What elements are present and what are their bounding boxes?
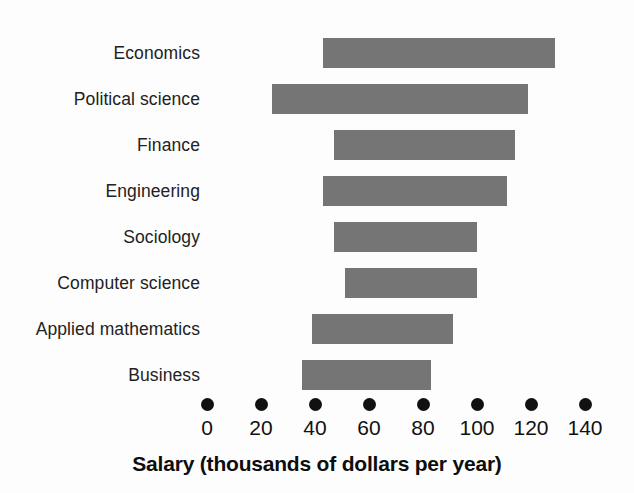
x-axis-tick-dot bbox=[471, 398, 484, 411]
category-label: Political science bbox=[0, 76, 200, 122]
x-axis-title: Salary (thousands of dollars per year) bbox=[0, 452, 634, 476]
category-label: Economics bbox=[0, 30, 200, 76]
category-label: Engineering bbox=[0, 168, 200, 214]
x-axis-tick-dot bbox=[417, 398, 430, 411]
bar-row: Applied mathematics bbox=[0, 306, 634, 352]
x-axis-tick-dot bbox=[525, 398, 538, 411]
x-axis-tick-dot bbox=[255, 398, 268, 411]
bar bbox=[334, 130, 515, 160]
x-axis-tick-dot bbox=[363, 398, 376, 411]
bar bbox=[345, 268, 477, 298]
x-axis-tick-marks bbox=[0, 398, 634, 416]
bar-chart: EconomicsPolitical scienceFinanceEnginee… bbox=[0, 0, 634, 493]
bar bbox=[312, 314, 452, 344]
bar bbox=[272, 84, 529, 114]
x-axis-tick-label: 140 bbox=[545, 415, 625, 441]
x-axis-tick-dot bbox=[309, 398, 322, 411]
bar-row: Sociology bbox=[0, 214, 634, 260]
bar-row: Computer science bbox=[0, 260, 634, 306]
bar-row: Business bbox=[0, 352, 634, 398]
bar-row: Engineering bbox=[0, 168, 634, 214]
bar bbox=[302, 360, 432, 390]
category-label: Computer science bbox=[0, 260, 200, 306]
bar-row: Political science bbox=[0, 76, 634, 122]
category-label: Sociology bbox=[0, 214, 200, 260]
bar-row: Finance bbox=[0, 122, 634, 168]
x-axis-tick-dot bbox=[201, 398, 214, 411]
bar-row: Economics bbox=[0, 30, 634, 76]
bar bbox=[323, 38, 555, 68]
bar bbox=[334, 222, 477, 252]
category-label: Applied mathematics bbox=[0, 306, 200, 352]
category-label: Finance bbox=[0, 122, 200, 168]
bar bbox=[323, 176, 507, 206]
category-label: Business bbox=[0, 352, 200, 398]
x-axis-tick-dot bbox=[579, 398, 592, 411]
x-axis-tick-labels: 020406080100120140 bbox=[0, 415, 634, 443]
